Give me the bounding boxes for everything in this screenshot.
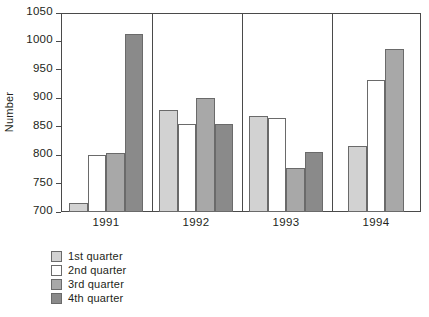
bar-1993-q1 <box>249 116 268 212</box>
bar-1994-q2 <box>367 80 386 212</box>
bar-1992-q1 <box>159 110 178 212</box>
bar-1992-q2 <box>178 124 197 212</box>
y-tick-label: 1000 <box>26 33 53 45</box>
x-axis-label-1994: 1994 <box>331 216 421 228</box>
bar-chart: Number 70075080085090095010001050 199119… <box>0 0 429 317</box>
y-tick-label: 900 <box>33 90 53 102</box>
bar-1992-q3 <box>196 98 215 212</box>
bars-layer <box>61 13 421 212</box>
y-axis-title: Number <box>3 72 15 152</box>
legend-swatch-q1 <box>51 251 62 262</box>
bar-1993-q2 <box>268 118 287 212</box>
y-tick-label: 800 <box>33 147 53 159</box>
x-axis-label-1993: 1993 <box>241 216 331 228</box>
legend-swatch-q4 <box>51 293 62 304</box>
bar-1992-q4 <box>215 124 234 212</box>
y-tick-label: 950 <box>33 62 53 74</box>
legend-item: 4th quarter <box>51 291 126 305</box>
bar-1991-q1 <box>69 203 88 212</box>
legend-label: 1st quarter <box>68 250 123 262</box>
x-axis-label-1991: 1991 <box>61 216 151 228</box>
legend-label: 4th quarter <box>68 292 123 304</box>
y-tick-label: 750 <box>33 176 53 188</box>
y-tick-label: 700 <box>33 204 53 216</box>
x-axis-label-1992: 1992 <box>151 216 241 228</box>
bar-1994-q3 <box>385 49 404 212</box>
y-tick-label: 850 <box>33 119 53 131</box>
chart-legend: 1st quarter2nd quarter3rd quarter4th qua… <box>51 249 126 305</box>
bar-1993-q4 <box>305 152 324 212</box>
legend-item: 2nd quarter <box>51 263 126 277</box>
bar-1993-q3 <box>286 168 305 212</box>
bar-1991-q2 <box>88 155 107 212</box>
legend-label: 3rd quarter <box>68 278 124 290</box>
bar-1991-q4 <box>125 34 144 212</box>
legend-swatch-q2 <box>51 265 62 276</box>
legend-item: 1st quarter <box>51 249 126 263</box>
legend-item: 3rd quarter <box>51 277 126 291</box>
legend-swatch-q3 <box>51 279 62 290</box>
bar-1991-q3 <box>106 153 125 212</box>
bar-1994-q1 <box>348 146 367 212</box>
y-tick-label: 1050 <box>26 5 53 17</box>
legend-label: 2nd quarter <box>68 264 126 276</box>
